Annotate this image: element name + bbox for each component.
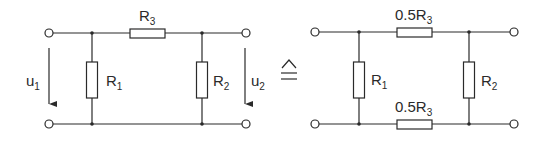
circuit-diagram: R3 R1 R2 u1 u2 (0, 0, 544, 141)
equivalence-symbol (281, 60, 297, 79)
resistor-r2 (197, 62, 208, 98)
label-half-r3-top: 0.5R3 (395, 6, 433, 26)
label-r2: R2 (213, 72, 230, 92)
terminal-input-top (311, 28, 319, 36)
terminal-input-bottom (311, 120, 319, 128)
terminal-output-bottom (510, 120, 518, 128)
junction-dot (467, 30, 471, 34)
terminal-output-bottom (242, 120, 250, 128)
junction-dot (200, 31, 204, 35)
label-u1: u1 (26, 72, 40, 92)
resistor-half-r3-top (397, 28, 432, 37)
terminal-input-top (45, 29, 53, 37)
terminal-output-top (510, 28, 518, 36)
resistor-r1 (354, 62, 365, 98)
junction-dot (200, 122, 204, 126)
junction-dot (357, 122, 361, 126)
label-r1: R1 (106, 72, 123, 92)
label-half-r3-bottom: 0.5R3 (395, 98, 433, 118)
junction-dot (90, 31, 94, 35)
terminal-input-bottom (45, 120, 53, 128)
left-circuit: R3 R1 R2 u1 u2 (26, 7, 265, 128)
label-r2: R2 (481, 72, 498, 92)
resistor-half-r3-bottom (397, 120, 432, 129)
junction-dot (467, 122, 471, 126)
terminal-output-top (242, 29, 250, 37)
right-circuit: 0.5R3 0.5R3 R1 R2 (311, 6, 518, 129)
resistor-r3 (130, 29, 165, 38)
resistor-r1 (87, 62, 98, 98)
resistor-r2 (464, 62, 475, 98)
label-r3: R3 (139, 7, 156, 27)
label-r1: R1 (371, 71, 388, 91)
equiv-hat (282, 60, 296, 68)
junction-dot (90, 122, 94, 126)
label-u2: u2 (251, 72, 265, 92)
junction-dot (357, 30, 361, 34)
